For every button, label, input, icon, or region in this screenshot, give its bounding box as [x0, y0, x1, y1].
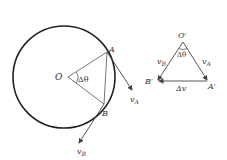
vertex-a-label: A′	[207, 82, 216, 91]
side-b-subscript: B	[161, 60, 167, 67]
point-b-label: B	[101, 109, 108, 118]
apex-label: O′	[178, 31, 187, 40]
orbit-circle	[13, 26, 115, 128]
angle-label: Δθ	[78, 75, 89, 84]
velocity-b-arrow	[79, 104, 104, 143]
side-b-label: vB	[157, 57, 167, 67]
circular-motion-diagram: O Δθ A B vA vB O′ Δθ B′ A′ vB vA Δv	[0, 0, 227, 160]
angle-arc-o-prime	[179, 48, 187, 50]
point-a-label: A	[108, 45, 115, 54]
side-a-subscript: A	[206, 60, 212, 67]
radius-oa	[68, 52, 107, 77]
velocity-a-label: vA	[130, 95, 140, 105]
velocity-b-subscript: B	[81, 150, 87, 157]
velocity-a-subscript: A	[134, 98, 140, 105]
chord-ab	[104, 52, 107, 104]
center-label: O	[55, 72, 63, 82]
velocity-a-arrow	[107, 52, 132, 90]
vertex-b-label: B′	[144, 77, 153, 86]
side-a-label: vA	[202, 57, 212, 67]
velocity-b-label: vB	[77, 147, 87, 157]
triangle-angle-label: Δθ	[177, 51, 186, 59]
delta-v-label: Δv	[175, 84, 187, 93]
